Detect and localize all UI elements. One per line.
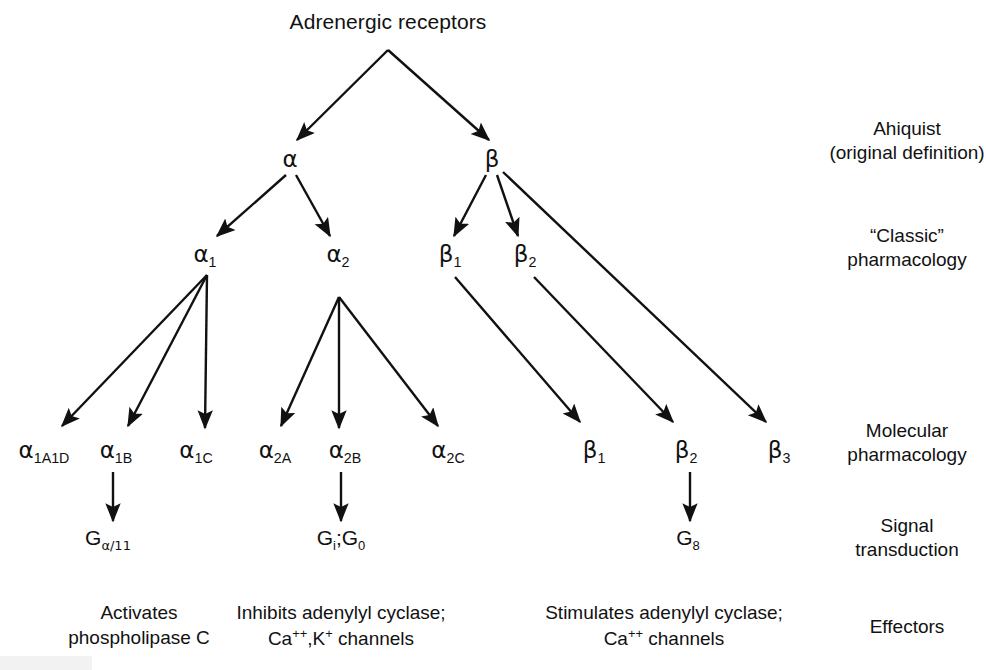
node-alpha2B: α2B (329, 437, 362, 467)
node-alpha1A1D: α1A1D (19, 437, 70, 467)
node-alpha1-sub: 1 (209, 254, 217, 270)
node-alpha2: α2 (326, 241, 349, 271)
edge-beta1-to-beta1m (455, 277, 580, 422)
node-g-alpha-11-sub: α/11 (101, 538, 131, 553)
level-label-signal-line1: Signal (855, 514, 959, 538)
effector-alpha2-k: ,K (307, 628, 325, 649)
level-label-ahlquist: Ahiquist (original definition) (829, 117, 984, 166)
edge-layer (0, 0, 986, 670)
node-beta1-molecular-greek: β (583, 437, 598, 463)
effector-alpha1-line1: Activates (68, 601, 210, 626)
node-alpha2C-greek: α (431, 437, 446, 463)
edge-beta-to-beta3m (503, 172, 766, 422)
node-alpha1A1D-greek: α (19, 437, 34, 463)
effector-alpha2-ca-charge: ++ (292, 625, 307, 640)
node-alpha2-greek: α (326, 241, 341, 267)
node-alpha1B-sub: 1B (115, 450, 132, 466)
node-alpha2A: α2A (259, 437, 292, 467)
level-label-effectors-line1: Effectors (870, 615, 945, 639)
node-beta1-greek: β (439, 241, 454, 267)
edge-alpha-to-alpha1 (217, 175, 286, 236)
effector-beta-ca: Ca (604, 628, 628, 649)
effector-beta: Stimulates adenylyl cyclase; Ca++ channe… (545, 601, 783, 652)
node-beta2-molecular-greek: β (675, 437, 690, 463)
node-beta2-molecular-sub: 2 (689, 450, 697, 466)
edge-beta-to-beta1 (454, 175, 486, 236)
node-alpha1-greek: α (193, 241, 208, 267)
node-alpha2B-greek: α (329, 437, 344, 463)
effector-alpha1-line2: phospholipase C (68, 626, 210, 651)
effector-alpha2-line2: Ca++,K+ channels (236, 625, 445, 651)
level-label-classic-line1: “Classic” (847, 224, 966, 248)
level-label-molecular-line1: Molecular (847, 419, 966, 443)
node-alpha1B-greek: α (100, 437, 115, 463)
node-gs-main: G (676, 526, 692, 549)
node-beta2: β2 (514, 241, 537, 271)
adrenergic-receptor-diagram: Adrenergic receptors α β α1 α2 β1 β2 α1A… (0, 0, 986, 670)
node-alpha2-sub: 2 (342, 254, 350, 270)
effector-alpha1: Activates phospholipase C (68, 601, 210, 650)
effector-beta-ca-charge: ++ (628, 625, 643, 640)
node-gi-go: Gi;G0 (317, 526, 366, 554)
effector-alpha2-ca: Ca (268, 628, 292, 649)
level-label-ahlquist-line2: (original definition) (829, 141, 984, 165)
edge-beta2-to-beta2m (534, 277, 673, 422)
effector-alpha2: Inhibits adenylyl cyclase; Ca++,K+ chann… (236, 601, 445, 652)
node-beta3-molecular-greek: β (768, 437, 783, 463)
edge-alpha-to-alpha2 (296, 175, 330, 236)
node-gi-go-sub2: 0 (358, 538, 365, 553)
node-alpha1C-greek: α (179, 437, 194, 463)
node-alpha1B: α1B (100, 437, 133, 467)
effector-beta-line2: Ca++ channels (545, 625, 783, 651)
edge-alpha1-to-alpha1C (205, 275, 207, 428)
node-alpha1A1D-sub: 1A1D (34, 450, 70, 466)
level-label-effectors: Effectors (870, 615, 945, 639)
node-beta2-sub: 2 (528, 254, 536, 270)
node-beta2-greek: β (514, 241, 529, 267)
edge-root-to-alpha (297, 50, 388, 140)
node-alpha2A-sub: 2A (274, 450, 291, 466)
node-alpha1C-sub: 1C (194, 450, 212, 466)
node-alpha2A-greek: α (259, 437, 274, 463)
node-gs-sub: 8 (693, 538, 700, 553)
node-beta1-molecular: β1 (583, 437, 606, 467)
level-label-molecular: Molecular pharmacology (847, 419, 966, 468)
edge-root-to-beta (388, 50, 489, 140)
node-g-alpha-11-main: G (85, 526, 101, 549)
level-label-signal: Signal transduction (855, 514, 959, 563)
node-beta3-molecular: β3 (768, 437, 791, 467)
effector-beta-channels: channels (643, 628, 724, 649)
level-label-ahlquist-line1: Ahiquist (829, 117, 984, 141)
scan-edge-artifact (0, 656, 92, 670)
node-gi-go-main2: ;G (336, 526, 358, 549)
node-gs: G8 (676, 526, 700, 554)
effector-beta-line1: Stimulates adenylyl cyclase; (545, 601, 783, 626)
node-beta: β (485, 146, 500, 173)
node-alpha2C-sub: 2C (446, 450, 464, 466)
node-g-alpha-11: Gα/11 (85, 526, 131, 554)
node-alpha1: α1 (193, 241, 216, 271)
edge-alpha2-to-alpha2C (339, 297, 438, 426)
node-gi-go-main: G (317, 526, 333, 549)
node-alpha2B-sub: 2B (344, 450, 361, 466)
node-beta1-molecular-sub: 1 (597, 450, 605, 466)
node-beta1: β1 (439, 241, 462, 271)
edge-alpha1-to-alpha1A1D (62, 275, 207, 426)
level-label-classic-line2: pharmacology (847, 248, 966, 272)
node-beta2-molecular: β2 (675, 437, 698, 467)
edge-alpha2-to-alpha2A (281, 297, 339, 426)
level-label-signal-line2: transduction (855, 538, 959, 562)
node-alpha1C: α1C (179, 437, 212, 467)
effector-alpha2-channels: channels (333, 628, 414, 649)
level-label-molecular-line2: pharmacology (847, 443, 966, 467)
node-beta3-molecular-sub: 3 (782, 450, 790, 466)
edge-alpha1-to-alpha1B (128, 275, 207, 426)
level-label-classic: “Classic” pharmacology (847, 224, 966, 273)
node-alpha: α (282, 146, 297, 173)
effector-alpha2-line1: Inhibits adenylyl cyclase; (236, 601, 445, 626)
node-adrenergic-receptors: Adrenergic receptors (290, 10, 487, 35)
node-alpha2C: α2C (431, 437, 464, 467)
node-beta1-sub: 1 (453, 254, 461, 270)
